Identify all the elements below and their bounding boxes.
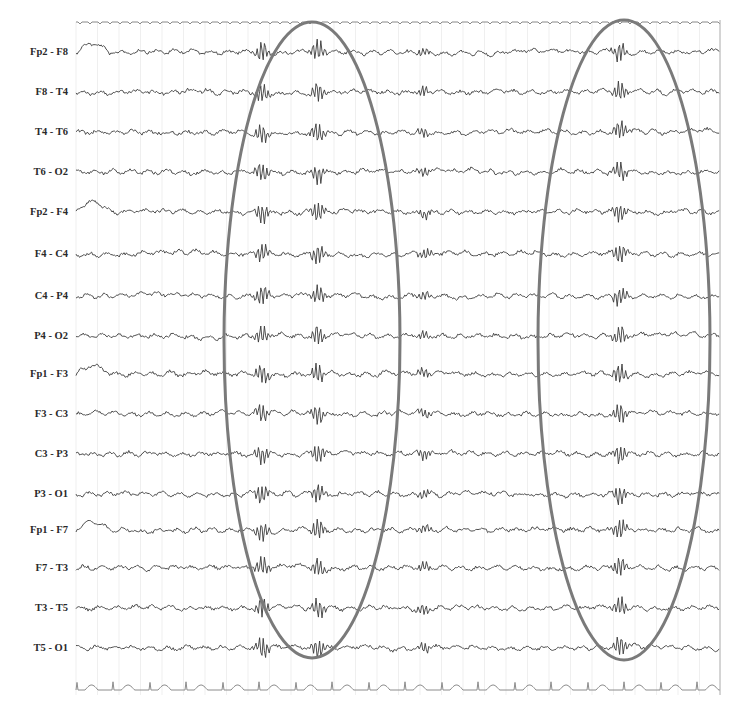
channel-trace xyxy=(76,597,719,618)
channel-traces xyxy=(76,39,719,658)
channel-trace xyxy=(76,326,719,344)
channel-trace xyxy=(76,121,719,143)
channel-trace xyxy=(76,81,719,101)
channel-trace xyxy=(76,637,719,658)
discharge-ellipse-1 xyxy=(224,22,400,658)
channel-trace xyxy=(76,485,719,505)
time-gridlines xyxy=(76,22,700,695)
channel-trace xyxy=(76,519,719,541)
time-marker-trace xyxy=(76,22,720,24)
eeg-figure: Fp2 - F8F8 - T4T4 - T6T6 - O2Fp2 - F4F4 … xyxy=(0,0,737,709)
channel-trace xyxy=(76,200,719,224)
channel-trace xyxy=(76,39,719,62)
channel-trace xyxy=(76,363,719,383)
channel-trace xyxy=(76,447,719,465)
ecg-trace xyxy=(76,682,720,690)
eeg-traces xyxy=(0,0,737,709)
channel-trace xyxy=(76,162,719,185)
channel-trace xyxy=(76,556,719,575)
